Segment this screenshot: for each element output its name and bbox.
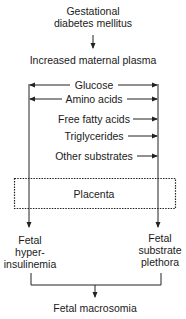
- right-outcome-line2: substrate: [138, 244, 181, 256]
- substrate-free-fatty-acids: Free fatty acids: [58, 113, 130, 125]
- substrate-glucose: Glucose: [73, 79, 116, 91]
- right-outcome-node: Fetal substrate plethora: [138, 232, 181, 268]
- left-outcome-line2: hyper-: [4, 246, 57, 258]
- substrate-amino-acids: Amino acids: [63, 93, 124, 105]
- placenta-label: Placenta: [74, 188, 115, 200]
- maternal-plasma-node: Increased maternal plasma: [30, 54, 157, 66]
- substrate-triglycerides: Triglycerides: [64, 130, 123, 142]
- right-outcome-line3: plethora: [138, 256, 181, 268]
- gdm-line1: Gestational: [54, 5, 132, 17]
- gdm-macrosomia-diagram: Gestational diabetes mellitus Increased …: [0, 0, 186, 319]
- gdm-node: Gestational diabetes mellitus: [54, 5, 132, 29]
- right-outcome-line1: Fetal: [138, 232, 181, 244]
- left-outcome-node: Fetal hyper- insulinemia: [4, 234, 57, 270]
- gdm-line2: diabetes mellitus: [54, 17, 132, 29]
- substrate-other: Other substrates: [55, 150, 133, 162]
- left-outcome-line3: insulinemia: [4, 258, 57, 270]
- left-outcome-line1: Fetal: [4, 234, 57, 246]
- macrosomia-node: Fetal macrosomia: [53, 302, 136, 314]
